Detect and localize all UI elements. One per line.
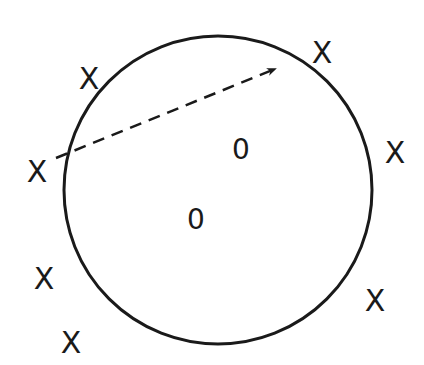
inside-point-o: 0 xyxy=(187,203,205,236)
outside-point-x: X xyxy=(79,61,100,96)
boundary-circle xyxy=(64,36,372,344)
outside-point-x: X xyxy=(385,135,406,170)
inside-points-group: 00 xyxy=(187,133,250,236)
outside-points-group: XXXXXXX xyxy=(27,35,406,360)
outside-point-x: X xyxy=(27,154,48,189)
inside-point-o: 0 xyxy=(232,133,250,166)
outside-point-x: X xyxy=(34,261,55,296)
outside-point-x: X xyxy=(312,35,333,70)
circle-points-diagram: XXXXXXX 00 xyxy=(0,0,424,365)
outside-point-x: X xyxy=(365,283,386,318)
outside-point-x: X xyxy=(61,325,82,360)
